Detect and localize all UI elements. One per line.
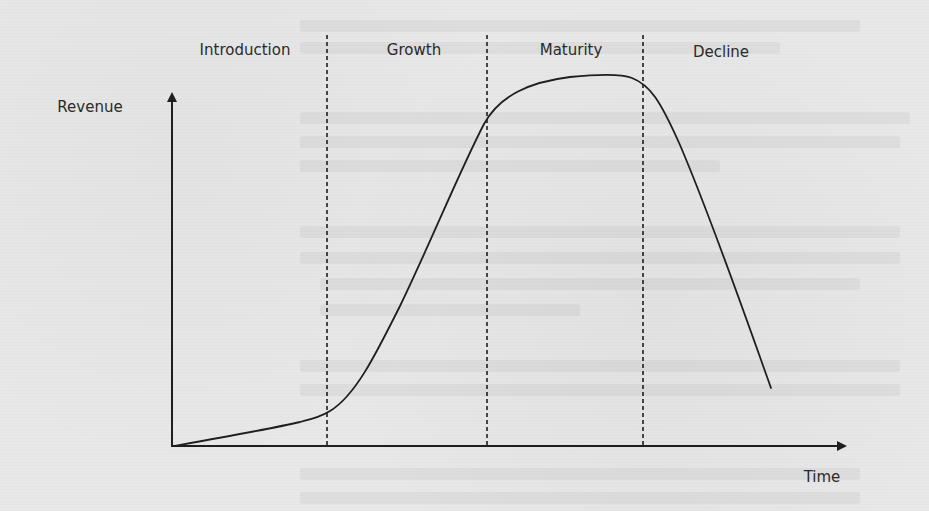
- stage-label-maturity: Maturity: [540, 41, 603, 59]
- product-life-cycle-diagram: Introduction Growth Maturity Decline Rev…: [0, 0, 929, 511]
- y-axis-label: Revenue: [57, 98, 122, 116]
- x-axis-label: Time: [803, 468, 841, 486]
- revenue-curve: [174, 75, 771, 446]
- stage-label-introduction: Introduction: [200, 41, 291, 59]
- stage-label-decline: Decline: [693, 43, 749, 61]
- stage-label-growth: Growth: [387, 41, 441, 59]
